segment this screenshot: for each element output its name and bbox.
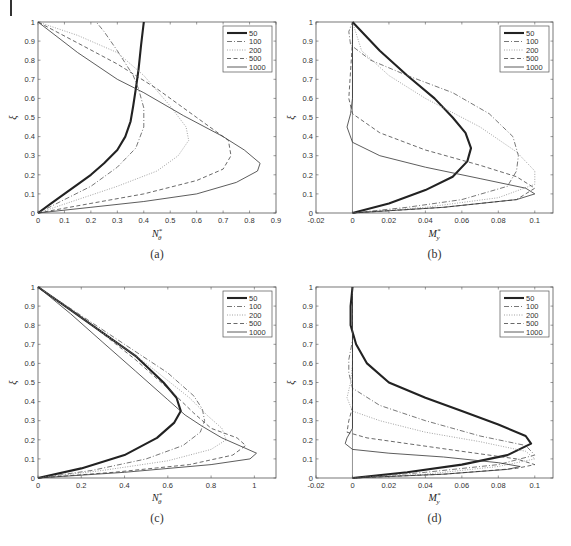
legend-label: 1000 [249,328,266,337]
y-tick-label: 0.2 [25,436,35,445]
y-tick-label: 0.7 [25,340,35,349]
y-tick-label: 0.1 [25,190,35,199]
x-tick-label: 0.1 [530,481,540,490]
y-tick-label: 1 [31,18,35,27]
x-tick-label: 0.4 [139,216,149,225]
y-tick-label: 0.8 [303,321,313,330]
x-tick-label: 0.4 [119,481,129,490]
x-tick-label: 0.08 [491,216,506,225]
x-tick-label: 0.2 [86,216,96,225]
y-tick-label: 0.5 [303,378,313,387]
y-tick-label: 0.9 [303,302,313,311]
panel-caption: (b) [428,247,442,261]
y-axis-label: ξ [285,380,297,385]
x-tick-label: 0.06 [455,481,470,490]
y-tick-label: 0.8 [25,321,35,330]
x-axis-label: M*y [428,227,441,242]
y-tick-label: 0.8 [303,56,313,65]
y-tick-label: 0.3 [303,151,313,160]
y-tick-label: 0.4 [303,132,313,141]
x-tick-label: 0.6 [191,216,201,225]
y-axis-label: ξ [7,380,19,385]
panel-caption: (a) [150,247,163,261]
y-tick-label: 0.1 [25,455,35,464]
x-tick-label: 0.1 [59,216,69,225]
x-tick-label: 0.02 [382,216,397,225]
x-tick-label: 0.7 [218,216,228,225]
x-tick-label: 0.8 [206,481,216,490]
y-tick-label: 0.7 [303,75,313,84]
y-tick-label: 0.4 [25,132,35,141]
y-tick-label: 0 [309,209,313,218]
x-tick-label: 0.04 [418,216,433,225]
legend-label: 1000 [526,63,543,72]
y-tick-label: 0.5 [303,113,313,122]
x-tick-label: 0.5 [165,216,175,225]
x-tick-label: 0.2 [76,481,86,490]
x-tick-label: 0 [36,481,40,490]
legend-label: 1000 [526,328,543,337]
x-tick-label: 0 [36,216,40,225]
x-tick-label: 0.9 [271,216,281,225]
x-tick-label: 0.6 [163,481,173,490]
y-tick-label: 1 [31,283,35,292]
y-tick-label: 0.3 [303,416,313,425]
x-axis-label: N*θ [151,491,163,506]
legend-label: 1000 [249,63,266,72]
y-axis-label: ξ [285,115,297,120]
y-tick-label: 0.6 [303,94,313,103]
y-tick-label: 0 [31,474,35,483]
y-tick-label: 0.1 [303,455,313,464]
panel-caption: (c) [150,511,163,525]
y-tick-label: 0 [309,474,313,483]
y-tick-label: 0.4 [303,397,313,406]
y-tick-label: 0.3 [25,151,35,160]
panel-d: -0.0200.020.040.060.080.100.10.20.30.40.… [285,283,553,525]
y-tick-label: 0.2 [25,171,35,180]
x-tick-label: 0.1 [530,216,540,225]
y-tick-label: 0.2 [303,171,313,180]
x-tick-label: 0.04 [418,481,433,490]
x-tick-label: 0 [350,216,354,225]
y-tick-label: 0.7 [303,340,313,349]
x-tick-label: 0.02 [382,481,397,490]
x-tick-label: 0.8 [244,216,254,225]
y-tick-label: 1 [309,18,313,27]
y-tick-label: 0.7 [25,75,35,84]
panel-c: 00.20.40.60.8100.10.20.30.40.50.60.70.80… [7,283,276,525]
y-tick-label: 0.1 [303,190,313,199]
y-tick-label: 0.8 [25,56,35,65]
y-tick-label: 0 [31,209,35,218]
y-tick-label: 0.6 [303,359,313,368]
y-tick-label: 0.3 [25,416,35,425]
y-tick-label: 0.6 [25,359,35,368]
figure: 00.10.20.30.40.50.60.70.80.900.10.20.30.… [0,0,571,546]
y-tick-label: 0.9 [303,37,313,46]
y-tick-label: 0.2 [303,436,313,445]
panel-caption: (d) [428,511,442,525]
y-tick-label: 1 [309,283,313,292]
x-tick-label: 0 [350,481,354,490]
panel-a: 00.10.20.30.40.50.60.70.80.900.10.20.30.… [7,18,281,261]
y-tick-label: 0.9 [25,302,35,311]
x-axis-label: N*θ [151,227,163,242]
y-tick-label: 0.9 [25,37,35,46]
x-tick-label: 1 [252,481,256,490]
y-tick-label: 0.5 [25,113,35,122]
y-tick-label: 0.5 [25,378,35,387]
x-axis-label: M*y [428,491,441,506]
x-tick-label: 0.3 [112,216,122,225]
y-axis-label: ξ [7,115,19,120]
y-tick-label: 0.4 [25,397,35,406]
x-tick-label: 0.06 [455,216,470,225]
panel-b: -0.0200.020.040.060.080.100.10.20.30.40.… [285,18,553,261]
x-tick-label: 0.08 [491,481,506,490]
y-tick-label: 0.6 [25,94,35,103]
